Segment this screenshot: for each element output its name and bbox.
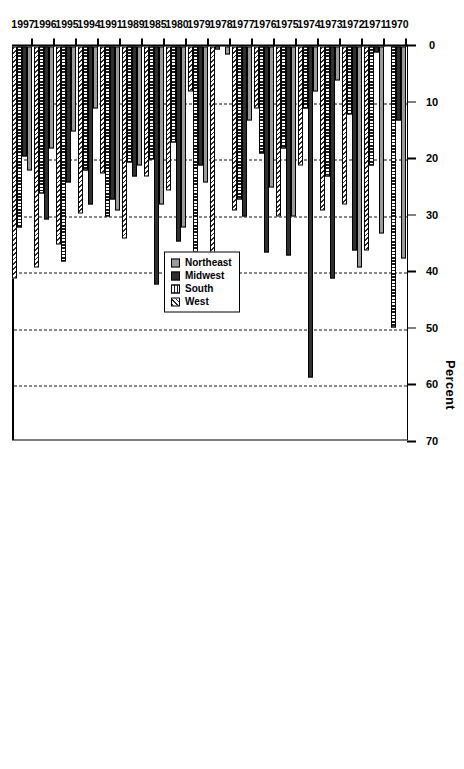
category-tick — [120, 38, 122, 46]
bar — [210, 46, 215, 272]
category-tick — [54, 38, 56, 46]
value-tick-label: 50 — [426, 321, 438, 333]
gridline — [14, 385, 407, 386]
category-tick — [252, 38, 254, 46]
bar — [49, 46, 54, 148]
bar — [364, 46, 369, 250]
bar — [286, 46, 291, 255]
bar — [232, 46, 237, 210]
bar — [269, 46, 274, 187]
bar — [144, 46, 149, 176]
bar — [159, 46, 164, 204]
bar — [27, 46, 32, 170]
category-tick — [274, 38, 276, 46]
bar — [298, 46, 303, 165]
bar — [17, 46, 22, 227]
bar — [330, 46, 335, 278]
bar — [149, 46, 154, 159]
bar — [66, 46, 71, 182]
value-tick-label: 40 — [426, 264, 438, 276]
bar — [137, 46, 142, 165]
bar — [34, 46, 39, 267]
bar — [303, 46, 308, 108]
bar — [320, 46, 325, 210]
category-tick — [362, 38, 364, 46]
bar — [325, 46, 330, 176]
value-tick-label: 30 — [426, 208, 438, 220]
chart-stage: Percent 010203040506070 1970197119721973… — [0, 0, 464, 769]
bar — [203, 46, 208, 182]
bar — [342, 46, 347, 204]
legend-item: Northeast — [171, 257, 232, 267]
bar — [22, 46, 27, 156]
bar — [154, 46, 159, 284]
bar — [198, 46, 203, 165]
value-tick-mark — [407, 327, 416, 329]
bar — [347, 46, 352, 114]
bar — [115, 46, 120, 210]
value-tick-label: 20 — [426, 151, 438, 163]
bar — [313, 46, 318, 91]
bar — [166, 46, 171, 190]
value-tick-mark — [407, 270, 416, 272]
bar — [369, 46, 374, 165]
bar — [132, 46, 137, 176]
category-tick — [164, 38, 166, 46]
value-tick-label: 0 — [429, 38, 435, 50]
bar — [352, 46, 357, 250]
category-tick — [340, 38, 342, 46]
bar — [401, 46, 406, 258]
legend-label: Midwest — [185, 270, 224, 280]
bar — [259, 46, 264, 153]
bar — [247, 46, 252, 120]
bar — [12, 46, 17, 278]
legend-item: Midwest — [171, 270, 232, 280]
bar — [188, 46, 193, 91]
legend-label: West — [185, 296, 209, 306]
category-tick — [384, 38, 386, 46]
bar — [391, 46, 396, 327]
legend-swatch-icon — [171, 283, 180, 292]
bar — [396, 46, 401, 120]
bar — [335, 46, 340, 80]
legend-item: West — [171, 296, 232, 306]
legend-label: Northeast — [185, 257, 232, 267]
bar — [374, 46, 379, 52]
bar — [39, 46, 44, 193]
bar — [281, 46, 286, 148]
bar — [110, 46, 115, 199]
bar — [56, 46, 61, 244]
bar — [122, 46, 127, 238]
bar — [181, 46, 186, 227]
category-tick — [230, 38, 232, 46]
legend-item: South — [171, 283, 232, 293]
bar — [276, 46, 281, 216]
bar — [171, 46, 176, 142]
bar — [83, 46, 88, 170]
bar — [176, 46, 181, 241]
value-tick-mark — [407, 44, 416, 46]
category-tick — [32, 38, 34, 46]
chart-title: Percent — [443, 0, 458, 769]
bar — [379, 46, 384, 233]
plot-area: 1970197119721973197419751976197719781979… — [12, 44, 408, 440]
category-tick — [406, 38, 408, 46]
value-tick-mark — [407, 440, 416, 442]
gridline — [14, 329, 407, 330]
value-tick-mark — [407, 157, 416, 159]
bar — [100, 46, 105, 173]
bar — [93, 46, 98, 108]
category-tick — [142, 38, 144, 46]
legend-swatch-icon — [171, 296, 180, 305]
bar — [242, 46, 247, 216]
legend-swatch-icon — [171, 257, 180, 266]
value-tick-label: 60 — [426, 377, 438, 389]
bar — [105, 46, 110, 216]
bar — [61, 46, 66, 261]
bar — [71, 46, 76, 131]
bar — [254, 46, 259, 108]
bar — [225, 46, 230, 54]
bar — [78, 46, 83, 213]
category-tick — [186, 38, 188, 46]
bar — [44, 46, 49, 219]
